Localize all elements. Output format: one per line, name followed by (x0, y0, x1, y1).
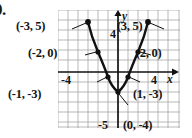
y-axis-label: y (122, 11, 127, 23)
point-label-neg3-5: (-3, 5) (16, 20, 45, 33)
point-label-1-neg3: (1, -3) (133, 88, 162, 101)
point-label-neg1-neg3: (-1, -3) (8, 88, 41, 101)
y-tick-label-4: 4 (110, 28, 116, 40)
point-label-0-neg4: (0, -4) (123, 119, 152, 132)
problem-number: 0. (0, 1, 6, 18)
point-label-2-0: (2, 0) (136, 47, 161, 60)
point-marker-0-neg4 (115, 89, 120, 94)
point-marker-neg2-0 (95, 49, 100, 54)
x-tick-label-4: 4 (151, 74, 157, 86)
graph-figure: 0. (0, 0, 192, 138)
y-tick-label-neg5: -5 (98, 119, 108, 131)
point-label-3-5: (3, 5) (117, 20, 142, 33)
x-tick-label-neg4: -4 (61, 74, 71, 86)
x-axis-label: x (167, 74, 173, 86)
point-label-neg2-0: (-2, 0) (28, 47, 57, 60)
point-marker-neg3-5 (85, 19, 91, 25)
point-marker-3-5 (145, 19, 151, 25)
